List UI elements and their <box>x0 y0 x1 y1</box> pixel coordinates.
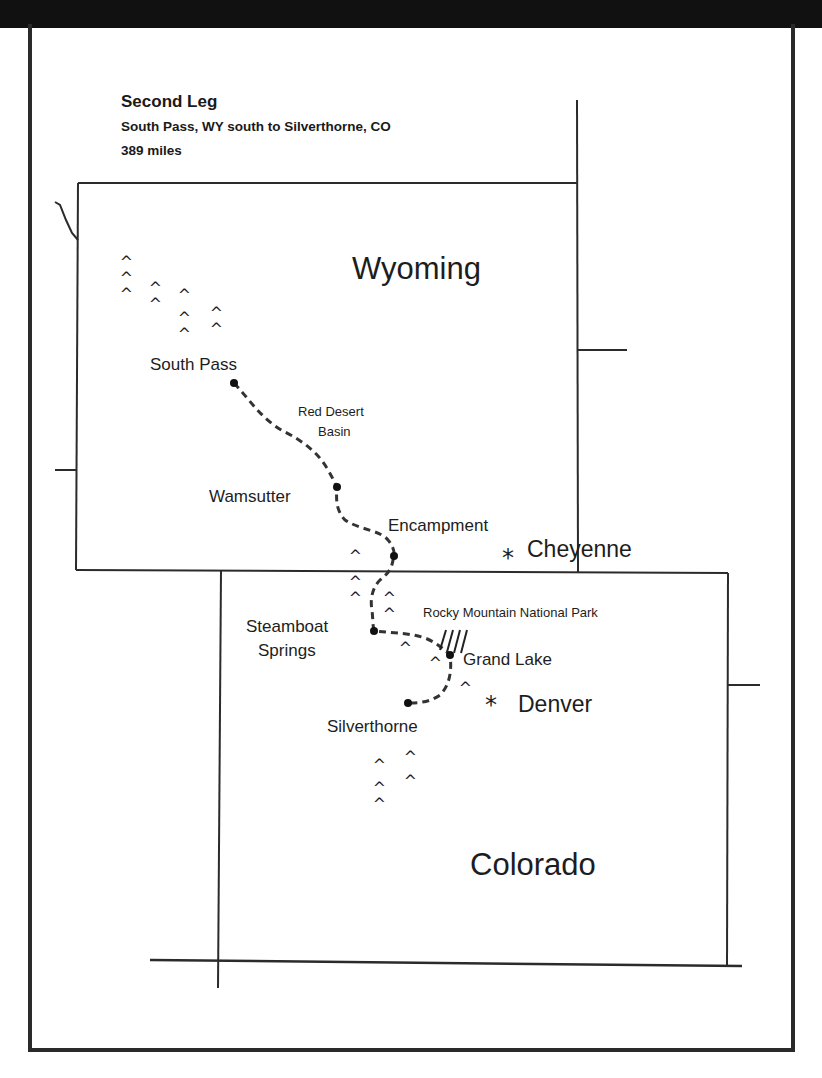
map-title: Second Leg <box>121 92 217 112</box>
label-rocky-mountain-np: Rocky Mountain National Park <box>423 606 598 620</box>
label-encampment: Encampment <box>388 517 488 536</box>
label-denver: Denver <box>518 692 592 717</box>
mountain-icon: ^ <box>210 306 223 321</box>
label-wamsutter: Wamsutter <box>209 488 291 507</box>
colorado-boundary <box>150 570 760 988</box>
label-south-pass: South Pass <box>150 356 237 375</box>
mountain-icon: ^ <box>149 297 162 312</box>
wyoming-boundary <box>55 100 728 573</box>
dot-silverthorne <box>404 699 412 707</box>
label-basin: Basin <box>318 425 351 439</box>
state-label-wyoming: Wyoming <box>352 252 481 286</box>
mountain-icon: ^ <box>149 281 162 296</box>
map-subtitle: South Pass, WY south to Silverthorne, CO <box>121 119 391 134</box>
label-red-desert: Red Desert <box>298 405 364 419</box>
mountain-icon: ^ <box>349 575 362 590</box>
mountain-icon: ^ <box>373 797 386 812</box>
mountain-icon: ^ <box>178 311 191 326</box>
dot-steamboat <box>370 627 378 635</box>
mountain-icon: ^ <box>210 322 223 337</box>
label-cheyenne: Cheyenne <box>527 537 632 562</box>
mountain-icon: ^ <box>178 327 191 342</box>
label-silverthorne: Silverthorne <box>327 718 418 737</box>
mountain-icon: ^ <box>404 750 417 765</box>
distance-label: 389 miles <box>121 143 182 158</box>
dot-wamsutter <box>333 483 341 491</box>
mountain-icon: ^ <box>120 287 133 302</box>
mountain-icon: ^ <box>178 288 191 303</box>
mountain-icon: ^ <box>399 641 412 656</box>
mountain-icon: ^ <box>459 681 472 696</box>
mountain-icon: ^ <box>373 758 386 773</box>
capital-star-icon: * <box>502 546 514 570</box>
mountain-icon: ^ <box>373 781 386 796</box>
mountain-icon: ^ <box>404 774 417 789</box>
mountain-icon: ^ <box>429 656 442 671</box>
dot-south-pass <box>230 379 238 387</box>
mountain-icon: ^ <box>349 591 362 606</box>
mountain-icon: ^ <box>383 591 396 606</box>
label-grand-lake: Grand Lake <box>463 651 552 670</box>
map-canvas <box>0 0 822 1078</box>
state-label-colorado: Colorado <box>470 848 596 882</box>
mountain-icon: ^ <box>349 549 362 564</box>
dot-encampment <box>390 552 398 560</box>
mountain-icon: ^ <box>120 255 133 270</box>
label-springs: Springs <box>258 642 316 661</box>
mountain-icon: ^ <box>383 607 396 622</box>
dot-grand-lake <box>446 651 454 659</box>
label-steamboat: Steamboat <box>246 618 328 637</box>
mountain-icon: ^ <box>120 271 133 286</box>
capital-star-icon: * <box>485 693 497 717</box>
